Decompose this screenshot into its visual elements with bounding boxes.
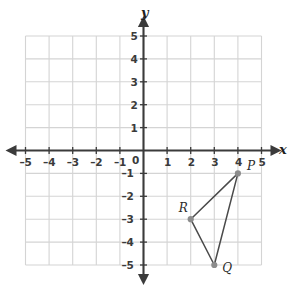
point-label-r: R	[179, 202, 188, 214]
x-tick-label: –5	[20, 157, 32, 168]
graph-canvas	[0, 0, 290, 290]
x-tick-label: –3	[67, 157, 79, 168]
y-tick-label: 3	[131, 77, 138, 88]
x-tick-label: –2	[90, 157, 102, 168]
y-tick-label: –4	[122, 237, 134, 248]
vertex-point-r	[188, 216, 194, 222]
x-axis-label: x	[279, 143, 287, 156]
x-axis-arrow-left	[6, 145, 17, 156]
y-axis-label: y	[141, 6, 149, 19]
y-tick-label: 4	[131, 54, 138, 65]
x-tick-label: –1	[114, 157, 126, 168]
x-tick-label: 3	[211, 157, 218, 168]
x-tick-label: 4	[235, 157, 242, 168]
point-label-p: P	[247, 160, 255, 172]
x-tick-label: 5	[259, 157, 266, 168]
y-tick-label: 1	[131, 123, 138, 134]
vertex-point-q	[211, 262, 217, 268]
y-axis-arrow-down	[138, 274, 149, 285]
x-tick-label: –4	[43, 157, 55, 168]
coordinate-plane-figure: y x 0 –5–4–3–2–11234554321–1–2–3–4–5 PQR	[0, 0, 290, 290]
y-tick-label: –5	[122, 260, 134, 271]
axes	[6, 16, 282, 285]
x-tick-label: 1	[164, 157, 171, 168]
x-tick-label: 2	[188, 157, 195, 168]
point-label-q: Q	[222, 262, 232, 274]
y-tick-label: –2	[122, 191, 134, 202]
y-tick-label: 2	[131, 100, 138, 111]
vertex-point-p	[235, 170, 241, 176]
y-tick-label: 5	[131, 31, 138, 42]
origin-tick-label: 0	[132, 155, 139, 166]
y-tick-label: –3	[122, 214, 134, 225]
y-tick-label: –1	[122, 168, 134, 179]
